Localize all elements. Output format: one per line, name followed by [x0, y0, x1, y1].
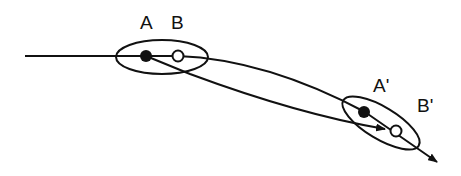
diagram-svg: A B A' B': [0, 0, 461, 176]
label-a: A: [140, 12, 153, 33]
point-b-prime-open-circle: [391, 126, 402, 137]
point-b-open-circle: [173, 51, 184, 62]
point-a-prime-filled-dot: [358, 106, 370, 118]
label-b-prime: B': [417, 95, 433, 116]
label-b: B: [171, 12, 184, 33]
label-a-prime: A': [373, 75, 389, 96]
diagram-canvas: A B A' B': [0, 0, 461, 176]
point-a-filled-dot: [140, 50, 152, 62]
